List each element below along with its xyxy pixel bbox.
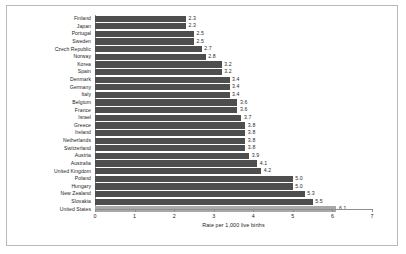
bar (95, 145, 245, 151)
bar (95, 160, 257, 166)
x-tick-label: 7 (371, 213, 374, 219)
bar-row: 3.8 (95, 137, 372, 145)
x-tick (135, 209, 136, 212)
x-tick (253, 209, 254, 212)
x-axis-title: Rate per 1,000 live births (95, 222, 372, 228)
x-tick (332, 209, 333, 212)
bar-row: 3.8 (95, 129, 372, 137)
bar-row: 4.1 (95, 160, 372, 168)
bar-row: 2.7 (95, 46, 372, 54)
bar-row: 2.5 (95, 30, 372, 38)
bar (95, 38, 194, 44)
bar (95, 168, 261, 174)
bar-row: 3.6 (95, 99, 372, 107)
bar-value-label: 5.5 (315, 197, 323, 205)
x-axis-ticks: 01234567 (95, 209, 372, 221)
bar (95, 69, 222, 75)
chart-frame: FinlandJapanPortugalSwedenCzech Republic… (6, 5, 398, 246)
category-label: Israel (7, 114, 93, 122)
bar-value-label: 4.2 (264, 166, 272, 174)
category-label: Belgium (7, 99, 93, 107)
category-label: Czech Republic (7, 46, 93, 54)
category-label: Greece (7, 122, 93, 130)
bar-value-label: 2.3 (189, 21, 197, 29)
bar (95, 31, 194, 37)
bar-value-label: 5.3 (307, 189, 315, 197)
bar-value-label: 5.0 (295, 182, 303, 190)
chart-plot-wrapper: FinlandJapanPortugalSwedenCzech Republic… (7, 6, 399, 247)
bar (95, 61, 222, 67)
x-tick-label: 2 (173, 213, 176, 219)
bar (95, 138, 245, 144)
bar-row: 3.8 (95, 122, 372, 130)
category-label: United Kingdom (7, 168, 93, 176)
category-label: Slovakia (7, 198, 93, 206)
bar-row: 5.0 (95, 183, 372, 191)
category-label: France (7, 107, 93, 115)
category-label: Italy (7, 91, 93, 99)
category-label: Korea (7, 61, 93, 69)
x-tick-label: 1 (133, 213, 136, 219)
x-tick (372, 209, 373, 212)
category-label: Denmark (7, 76, 93, 84)
bar-value-label: 3.9 (252, 151, 260, 159)
category-axis-labels: FinlandJapanPortugalSwedenCzech Republic… (7, 15, 93, 209)
bar (95, 183, 293, 189)
bar (95, 122, 245, 128)
x-tick-label: 5 (291, 213, 294, 219)
bar-row: 3.4 (95, 91, 372, 99)
bar (95, 199, 313, 205)
bar (95, 99, 237, 105)
bar-value-label: 2.5 (196, 37, 204, 45)
category-label: New Zealand (7, 190, 93, 198)
x-tick-label: 0 (94, 213, 97, 219)
bar-row: 3.6 (95, 107, 372, 115)
category-label: Switzerland (7, 145, 93, 153)
bar-row: 2.3 (95, 23, 372, 31)
bar (95, 16, 186, 22)
bar-row: 3.9 (95, 152, 372, 160)
bar (95, 107, 237, 113)
bar (95, 115, 241, 121)
category-label: Ireland (7, 129, 93, 137)
x-tick (214, 209, 215, 212)
bar (95, 77, 230, 83)
bar-row: 3.8 (95, 145, 372, 153)
bar (95, 130, 245, 136)
bar (95, 46, 202, 52)
x-tick-label: 3 (212, 213, 215, 219)
bar-value-label: 3.2 (224, 67, 232, 75)
category-label: Japan (7, 23, 93, 31)
x-tick (174, 209, 175, 212)
category-label: Spain (7, 68, 93, 76)
bar-row: 2.8 (95, 53, 372, 61)
x-tick (95, 209, 96, 212)
category-label: Portugal (7, 30, 93, 38)
category-label: Germany (7, 84, 93, 92)
bar-row: 2.3 (95, 15, 372, 23)
bar (95, 84, 230, 90)
x-tick-label: 4 (252, 213, 255, 219)
bar-row: 3.7 (95, 114, 372, 122)
bar (95, 176, 293, 182)
bar (95, 92, 230, 98)
bar-row: 5.5 (95, 198, 372, 206)
bar-row: 5.3 (95, 190, 372, 198)
category-label: Netherlands (7, 137, 93, 145)
bar-value-label: 2.8 (208, 52, 216, 60)
bar-row: 4.2 (95, 168, 372, 176)
category-label: Austria (7, 152, 93, 160)
category-label: Sweden (7, 38, 93, 46)
bars-container: 2.32.32.52.52.72.83.23.23.43.43.43.63.63… (95, 15, 372, 209)
x-tick-label: 6 (331, 213, 334, 219)
category-label: Australia (7, 160, 93, 168)
x-tick (293, 209, 294, 212)
category-label: Poland (7, 175, 93, 183)
bar (95, 191, 305, 197)
bar (95, 23, 186, 29)
bar-value-label: 3.4 (232, 90, 240, 98)
bar (95, 153, 249, 159)
bar-row: 2.5 (95, 38, 372, 46)
category-label: United States (7, 206, 93, 214)
category-label: Norway (7, 53, 93, 61)
